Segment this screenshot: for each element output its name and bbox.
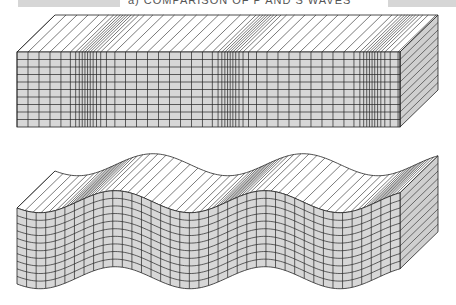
s-wave-block (17, 154, 438, 289)
wave-diagram (0, 0, 456, 305)
p-wave-block (17, 15, 438, 127)
